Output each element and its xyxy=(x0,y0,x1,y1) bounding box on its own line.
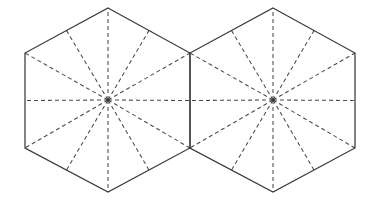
right-hexagon-center-point xyxy=(271,98,275,102)
left-hexagon-center-point xyxy=(106,98,110,102)
hexagon-figure xyxy=(0,0,372,210)
